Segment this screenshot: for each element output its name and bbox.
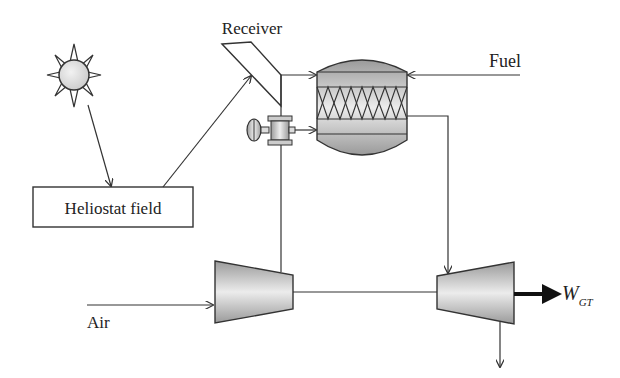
work-output-subscript: GT bbox=[579, 296, 594, 308]
heliostat-field-label: Heliostat field bbox=[65, 199, 162, 218]
solar-radiation-arrow bbox=[88, 105, 111, 186]
receiver-label: Receiver bbox=[222, 19, 283, 38]
combustor-to-turbine-arrow bbox=[407, 116, 448, 273]
reflected-radiation-arrow bbox=[163, 76, 251, 187]
valve-icon bbox=[247, 116, 295, 145]
diagram-canvas: Heliostat field Receiver Fuel bbox=[0, 0, 620, 378]
fuel-label: Fuel bbox=[489, 51, 521, 71]
combustion-chamber-icon bbox=[317, 60, 407, 155]
heliostat-field-box: Heliostat field bbox=[33, 187, 193, 227]
work-output-label: WGT bbox=[562, 282, 594, 308]
air-label: Air bbox=[87, 313, 110, 332]
sun-icon bbox=[47, 44, 101, 107]
receiver: Receiver bbox=[222, 19, 283, 106]
